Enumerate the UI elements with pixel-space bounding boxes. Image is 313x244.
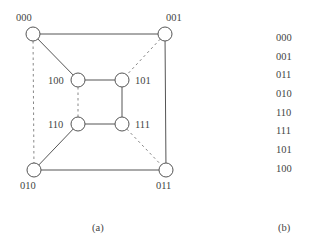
sequence-item: 000 bbox=[276, 31, 292, 50]
edge-000-010 bbox=[33, 41, 34, 163]
hypercube-diagram: 000001100101110111010011 bbox=[0, 0, 313, 244]
sequence-item: 001 bbox=[276, 50, 292, 69]
edge-001-011 bbox=[165, 41, 166, 163]
sequence-item: 010 bbox=[276, 87, 292, 106]
sequence-item: 101 bbox=[276, 143, 292, 162]
node-111 bbox=[115, 117, 129, 131]
node-010 bbox=[27, 163, 41, 177]
node-label-100: 100 bbox=[48, 75, 64, 86]
sequence-item: 110 bbox=[276, 106, 292, 125]
node-label-110: 110 bbox=[48, 119, 63, 130]
node-labels-group: 000001100101110111010011 bbox=[16, 12, 182, 191]
node-label-010: 010 bbox=[20, 180, 36, 191]
node-label-101: 101 bbox=[135, 75, 151, 86]
edge-001-101 bbox=[127, 39, 160, 75]
node-011 bbox=[159, 163, 173, 177]
node-label-001: 001 bbox=[166, 12, 182, 23]
edge-110-010 bbox=[39, 129, 73, 165]
gray-code-sequence-list: 000 001 011 010 110 111 101 100 bbox=[276, 31, 292, 181]
node-100 bbox=[71, 73, 85, 87]
node-label-011: 011 bbox=[156, 180, 171, 191]
edge-111-011 bbox=[127, 129, 161, 165]
node-001 bbox=[158, 27, 172, 41]
node-label-000: 000 bbox=[16, 12, 32, 23]
node-label-111: 111 bbox=[135, 119, 150, 130]
edges-group bbox=[33, 34, 166, 170]
sequence-item: 100 bbox=[276, 162, 292, 181]
caption-a: (a) bbox=[92, 222, 104, 233]
node-000 bbox=[26, 27, 40, 41]
caption-b: (b) bbox=[278, 222, 290, 233]
node-110 bbox=[71, 117, 85, 131]
edge-000-100 bbox=[38, 39, 73, 75]
sequence-item: 011 bbox=[276, 68, 292, 87]
sequence-item: 111 bbox=[276, 124, 292, 143]
node-101 bbox=[115, 73, 129, 87]
